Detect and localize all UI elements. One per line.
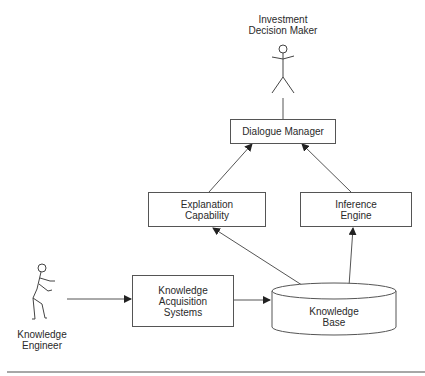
- edge-kb-to-inference: [349, 228, 353, 286]
- decision-maker-label: Investment Decision Maker: [243, 14, 323, 36]
- edge-explanation-to-dialogue: [209, 144, 252, 192]
- knowledge-base-label-line2: Base: [294, 317, 374, 328]
- knowledge-base-label: Knowledge Base: [294, 306, 374, 328]
- inference-label-line1: Inference: [335, 199, 377, 210]
- acquisition-label-line2: Acquisition: [159, 296, 207, 307]
- acquisition-label-line1: Knowledge: [158, 285, 207, 296]
- edge-inference-to-dialogue: [302, 144, 351, 192]
- inference-engine-box: Inference Engine: [300, 192, 412, 227]
- knowledge-engineer-figure-icon: [32, 264, 55, 319]
- decision-maker-figure-icon: [272, 45, 294, 93]
- acquisition-label-line3: Systems: [164, 307, 202, 318]
- dialogue-manager-box: Dialogue Manager: [230, 119, 336, 144]
- knowledge-engineer-label-line2: Engineer: [12, 340, 72, 351]
- dialogue-manager-label: Dialogue Manager: [242, 126, 324, 137]
- explanation-capability-box: Explanation Capability: [148, 192, 266, 227]
- explanation-label-line1: Explanation: [181, 199, 233, 210]
- knowledge-engineer-label-line1: Knowledge: [12, 329, 72, 340]
- inference-label-line2: Engine: [340, 210, 371, 221]
- decision-maker-label-line2: Decision Maker: [243, 25, 323, 36]
- decision-maker-label-line1: Investment: [243, 14, 323, 25]
- knowledge-base-label-line1: Knowledge: [294, 306, 374, 317]
- knowledge-engineer-label: Knowledge Engineer: [12, 329, 72, 351]
- explanation-label-line2: Capability: [185, 210, 229, 221]
- knowledge-acquisition-box: Knowledge Acquisition Systems: [132, 275, 234, 327]
